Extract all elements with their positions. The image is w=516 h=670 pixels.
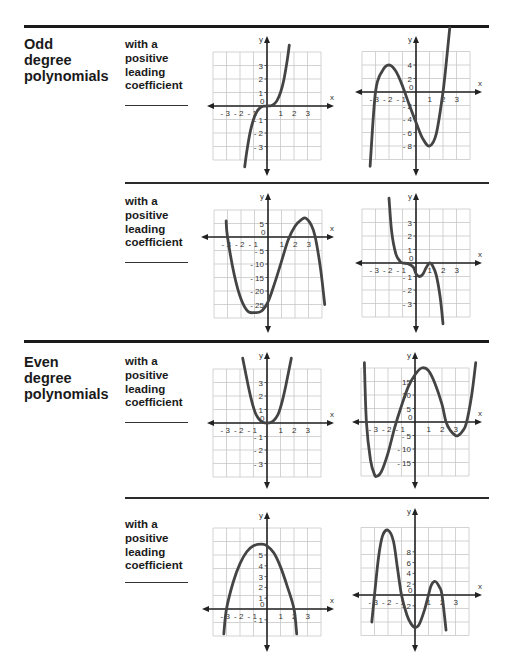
x-axis-label: x [478, 79, 482, 88]
arrow-down-icon [413, 169, 419, 176]
x-tick-label: - 2 [234, 612, 244, 621]
x-tick-label: - 2 [383, 95, 393, 104]
polynomial-curve [364, 363, 475, 477]
arrow-right-icon [475, 260, 482, 266]
y-tick-label: 4 [259, 562, 264, 571]
y-tick-label: 3 [259, 379, 264, 388]
y-axis-label: y [259, 511, 263, 520]
y-tick-label: - 10 [250, 260, 264, 269]
y-tick-label: - 25 [250, 301, 264, 310]
y-tick-label: - 6 [403, 129, 413, 138]
arrow-right-icon [327, 606, 334, 612]
x-axis-label: x [478, 409, 482, 418]
x-tick-label: 1 [428, 95, 433, 104]
y-axis-label: y [260, 192, 264, 201]
x-tick-label: 2 [293, 240, 298, 249]
y-tick-label: - 2 [254, 129, 264, 138]
y-tick-label: - 15 [397, 459, 411, 468]
arrow-up-icon [264, 352, 270, 359]
y-tick-label: - 8 [403, 142, 413, 151]
y-tick-label: - 1 [254, 433, 264, 442]
y-tick-label: 1 [259, 406, 264, 415]
x-tick-label: 1 [280, 240, 285, 249]
arrow-right-icon [327, 234, 334, 240]
y-tick-label: 4 [408, 61, 413, 70]
x-tick-label: - 2 [382, 598, 392, 607]
x-tick-label: 3 [454, 425, 459, 434]
y-tick-label: - 1 [254, 616, 264, 625]
x-tick-label: - 3 [370, 266, 380, 275]
x-tick-label: 3 [307, 240, 312, 249]
graph-even-3: xy- 3- 2- 1012354321- 1 [202, 511, 334, 652]
x-tick-label: 3 [306, 109, 311, 118]
y-tick-label: - 10 [397, 445, 411, 454]
x-tick-label: 3 [306, 612, 311, 621]
arrow-left-icon [202, 606, 209, 612]
x-tick-label: 0 [261, 228, 266, 237]
y-axis-label: y [259, 35, 263, 44]
arrow-down-icon [264, 645, 270, 652]
y-axis-label: y [407, 507, 411, 516]
x-tick-label: 1 [427, 425, 432, 434]
arrow-right-icon [475, 89, 482, 95]
graph-even-1: xy- 3- 2- 10123321- 1- 2- 3 [207, 351, 334, 489]
x-axis-label: x [330, 596, 334, 605]
x-tick-label: 1 [428, 266, 433, 275]
x-tick-label: - 2 [383, 266, 393, 275]
arrow-up-icon [412, 352, 418, 359]
y-axis-label: y [407, 351, 411, 360]
y-tick-label: - 5 [402, 432, 412, 441]
x-tick-label: 1 [279, 426, 284, 435]
y-tick-label: - 20 [250, 287, 264, 296]
arrow-down-icon [412, 645, 418, 652]
arrow-left-icon [201, 234, 208, 240]
arrow-left-icon [207, 420, 214, 426]
arrow-up-icon [413, 36, 419, 43]
y-tick-label: 3 [408, 219, 413, 228]
arrow-right-icon [475, 419, 482, 425]
x-tick-label: 0 [409, 83, 414, 92]
graph-odd-3: xy- 3- 2- 101235- 5- 10- 15- 20- 25 [201, 192, 334, 333]
arrow-left-icon [352, 419, 359, 425]
arrow-right-icon [475, 592, 482, 598]
y-tick-label: 8 [407, 548, 412, 557]
y-tick-label: 3 [259, 573, 264, 582]
x-tick-label: - 2 [235, 240, 245, 249]
y-tick-label: 2 [259, 583, 264, 592]
y-tick-label: - 3 [403, 300, 413, 309]
x-tick-label: - 3 [221, 109, 231, 118]
x-tick-label: 2 [292, 109, 297, 118]
arrow-left-icon [207, 103, 214, 109]
y-tick-label: 2 [259, 75, 264, 84]
graph-odd-4: xy- 3- 2- 10123321- 1- 2- 3 [355, 192, 482, 333]
y-tick-label: 1 [259, 89, 264, 98]
x-tick-label: 1 [279, 612, 284, 621]
arrow-left-icon [352, 592, 359, 598]
y-tick-label: 2 [408, 75, 413, 84]
x-tick-label: 2 [440, 425, 445, 434]
x-axis-label: x [330, 93, 334, 102]
x-axis-label: x [330, 224, 334, 233]
arrow-up-icon [413, 193, 419, 200]
y-tick-label: 5 [260, 220, 265, 229]
graph-odd-1: xy- 3- 2- 10123321- 1- 2- 3 [207, 35, 334, 176]
y-tick-label: 6 [407, 559, 412, 568]
y-tick-label: - 2 [403, 286, 413, 295]
arrow-up-icon [412, 508, 418, 515]
x-tick-label: 3 [455, 95, 460, 104]
y-tick-label: 4 [407, 569, 412, 578]
y-tick-label: 2 [408, 232, 413, 241]
x-tick-label: 0 [260, 97, 265, 106]
x-tick-label: - 2 [382, 425, 392, 434]
x-tick-label: - 2 [234, 109, 244, 118]
y-tick-label: 3 [259, 62, 264, 71]
x-tick-label: 3 [306, 426, 311, 435]
y-axis-label: y [408, 35, 412, 44]
arrow-down-icon [264, 169, 270, 176]
y-tick-label: - 5 [255, 247, 265, 256]
graphs-canvas: xy- 3- 2- 10123321- 1- 2- 3xy- 3- 2- 101… [0, 0, 516, 670]
x-tick-label: - 3 [369, 425, 379, 434]
x-axis-label: x [478, 250, 482, 259]
graph-odd-2: xy- 3- 2- 1012342- 2- 4- 6- 8 [355, 28, 482, 176]
arrow-down-icon [264, 482, 270, 489]
